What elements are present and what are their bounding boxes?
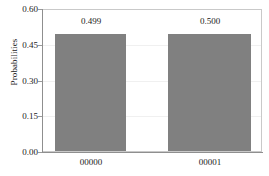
y-tick-label-045: 0.45 [12,41,38,50]
y-tick-label-030: 0.30 [12,77,38,86]
bar-chart: Probabilities 0.60 0.45 0.30 0.15 0.00 0… [0,0,269,176]
bar-00000 [55,34,126,151]
y-axis-tick-labels: 0.60 0.45 0.30 0.15 0.00 [10,0,38,176]
y-tick-label-060: 0.60 [12,5,38,14]
bar-value-label-00000: 0.499 [55,17,127,26]
x-axis-line [42,152,263,153]
x-category-label-00001: 00001 [168,158,252,167]
plot-area [42,9,262,152]
bar-00001 [168,34,251,152]
y-tick-label-000: 0.00 [12,148,38,157]
y-tick-label-015: 0.15 [12,112,38,121]
x-category-label-00000: 00000 [55,158,127,167]
bar-value-label-00001: 0.500 [168,17,252,26]
y-axis-line [42,9,43,153]
